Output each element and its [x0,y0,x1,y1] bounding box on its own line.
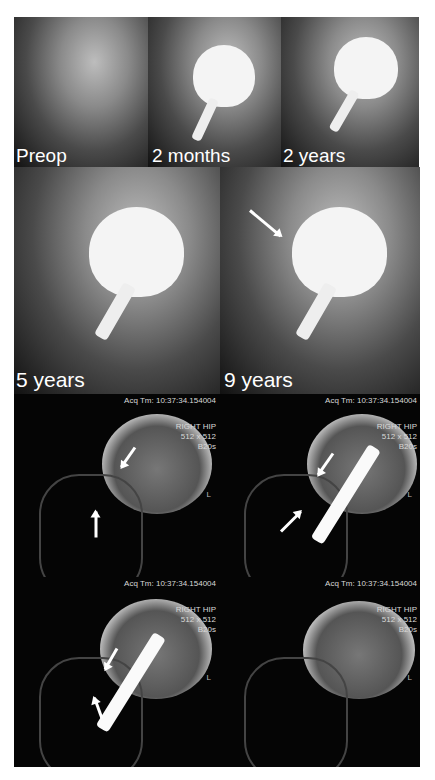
panel-label: 5 years [16,369,85,390]
arrow-indicator [249,209,282,237]
implant-head [89,207,184,297]
femur-outline [39,474,143,577]
implant-head [292,207,387,297]
ct-slice-3: Acq Tm: 10:37:34.154004 RIGHT HIP 512 x … [14,577,219,767]
acquisition-time: Acq Tm: 10:37:34.154004 [124,579,216,588]
implant-head [193,45,255,107]
scan-info: RIGHT HIP 512 x 512 B20s [377,605,417,635]
ct-slice-2: Acq Tm: 10:37:34.154004 RIGHT HIP 512 x … [219,394,420,577]
xray-9-years: 9 years [220,167,420,394]
acquisition-time: Acq Tm: 10:37:34.154004 [124,396,216,405]
panel-label: 2 years [283,146,345,165]
scan-info: RIGHT HIP 512 x 512 B20s [176,605,216,635]
scan-info: RIGHT HIP 512 x 512 B20s [377,422,417,452]
implant-stem [329,89,360,133]
ct-slice-1: Acq Tm: 10:37:34.154004 RIGHT HIP 512 x … [14,394,219,577]
panel-label: 9 years [224,369,293,390]
orientation-marker: L [408,673,412,682]
implant-head [334,37,398,99]
xray-5-years: 5 years [14,167,220,394]
acquisition-time: Acq Tm: 10:37:34.154004 [325,579,417,588]
implant-stem [191,97,219,142]
orientation-marker: L [207,490,211,499]
xray-2-years: 2 years [281,17,419,167]
orientation-marker: L [408,490,412,499]
xray-2-months: 2 months [148,17,281,167]
xray-preop: Preop [14,17,148,167]
femur-outline [244,657,348,767]
arrow-indicator [95,512,98,538]
orientation-marker: L [207,673,211,682]
scan-info: RIGHT HIP 512 x 512 B20s [176,422,216,452]
acquisition-time: Acq Tm: 10:37:34.154004 [325,396,417,405]
panel-label: 2 months [152,146,230,165]
panel-label: Preop [16,146,67,165]
ct-slice-4: Acq Tm: 10:37:34.154004 RIGHT HIP 512 x … [219,577,420,767]
